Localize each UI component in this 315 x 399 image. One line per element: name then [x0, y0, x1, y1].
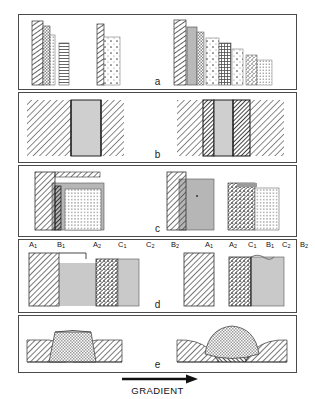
panel-b-right-group — [177, 100, 284, 156]
gradient-arrow — [18, 374, 297, 385]
panel-e-left-profile — [27, 331, 122, 363]
panel-d-left-group — [29, 253, 139, 306]
panel-letter-e: e — [155, 360, 161, 370]
panel-c: c — [18, 165, 297, 237]
panel-b: b — [18, 92, 297, 163]
panel-d-right-group — [184, 253, 284, 306]
panel-c-left-group — [35, 172, 104, 230]
panel-letter-a: a — [155, 77, 161, 87]
figure-root: a — [0, 0, 315, 399]
panel-a: a — [18, 14, 297, 90]
panel-a-midleft-cluster — [97, 24, 120, 85]
panel-a-right-cluster — [174, 20, 272, 85]
panel-c-right-group — [167, 172, 279, 230]
panel-letter-d: d — [155, 300, 161, 310]
zone-label-b2-right: B2 — [300, 241, 308, 249]
panel-e: e — [18, 315, 297, 373]
gradient-label: GRADIENT — [18, 385, 297, 396]
panel-letter-c: c — [155, 224, 160, 234]
panel-b-left-group — [27, 100, 124, 156]
panel-e-right-profile — [177, 326, 287, 362]
panel-a-left-cluster — [32, 21, 69, 85]
panel-d: A1 B1 A2 C1 C2 B2 A1 A2 C1 B1 C2 B2 — [18, 239, 297, 313]
panel-letter-b: b — [155, 150, 161, 160]
gradient-axis: GRADIENT — [18, 374, 297, 399]
